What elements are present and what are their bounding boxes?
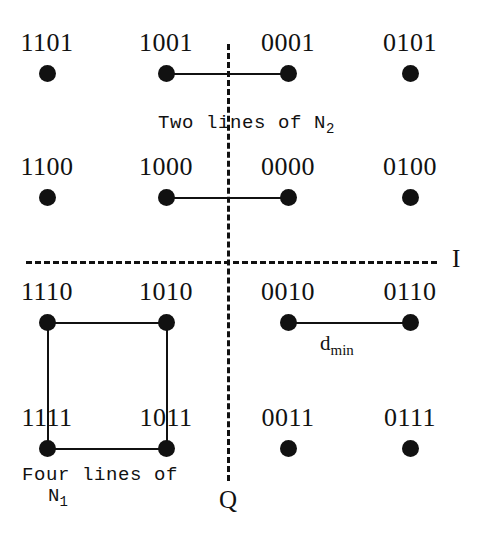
connector-n2-second — [166, 197, 288, 199]
constellation-label: 1001 — [139, 30, 193, 56]
constellation-point — [158, 189, 175, 206]
annotation-two-lines-of-n2: Two lines of N2 — [158, 113, 334, 140]
constellation-label: 0111 — [384, 405, 436, 431]
constellation-point — [39, 189, 56, 206]
constellation-label: 0001 — [261, 30, 315, 56]
constellation-label: 0000 — [261, 154, 315, 180]
annotation-four-lines-subscript: 1 — [59, 494, 67, 510]
constellation-point — [39, 440, 56, 457]
constellation-label: 1101 — [20, 30, 73, 56]
annotation-two-lines-text: Two lines of N — [158, 112, 326, 134]
constellation-point — [158, 314, 175, 331]
constellation-label: 0010 — [261, 279, 315, 305]
constellation-label: 1000 — [139, 154, 193, 180]
constellation-point — [39, 314, 56, 331]
constellation-label: 0011 — [261, 405, 314, 431]
constellation-point — [280, 440, 297, 457]
constellation-point — [280, 189, 297, 206]
constellation-label: 0101 — [383, 30, 437, 56]
constellation-point — [402, 440, 419, 457]
constellation-point — [280, 314, 297, 331]
constellation-label: 0100 — [383, 154, 437, 180]
q-axis-label: Q — [219, 487, 237, 512]
i-axis-dashed-line — [26, 261, 437, 264]
annotation-dmin-subscript: min — [331, 342, 354, 358]
i-axis-label: I — [452, 246, 460, 271]
connector-n1-square-bottom — [47, 448, 166, 450]
constellation-label: 1111 — [21, 405, 72, 431]
annotation-two-lines-subscript: 2 — [326, 121, 334, 137]
connector-n2-top — [166, 73, 288, 75]
constellation-label: 1100 — [20, 154, 73, 180]
constellation-point — [158, 440, 175, 457]
constellation-point — [402, 314, 419, 331]
constellation-label: 1110 — [21, 279, 73, 305]
constellation-point — [158, 65, 175, 82]
constellation-figure: I Q 1101 1001 0001 0101 Two lines of N2 … — [0, 0, 482, 538]
annotation-dmin: dmin — [320, 333, 354, 361]
constellation-label: 0110 — [383, 279, 436, 305]
annotation-dmin-text: d — [320, 331, 331, 355]
constellation-point — [39, 65, 56, 82]
annotation-four-lines-of: Four lines of — [22, 465, 178, 486]
constellation-label: 1010 — [139, 279, 193, 305]
constellation-label: 1011 — [139, 405, 192, 431]
constellation-point — [280, 65, 297, 82]
connector-n1-square-top — [47, 322, 166, 324]
constellation-point — [402, 189, 419, 206]
constellation-point — [402, 65, 419, 82]
connector-dmin-measure — [288, 322, 410, 324]
annotation-four-lines-n-text: N — [48, 485, 59, 507]
annotation-four-lines-n1: N1 — [48, 486, 68, 513]
